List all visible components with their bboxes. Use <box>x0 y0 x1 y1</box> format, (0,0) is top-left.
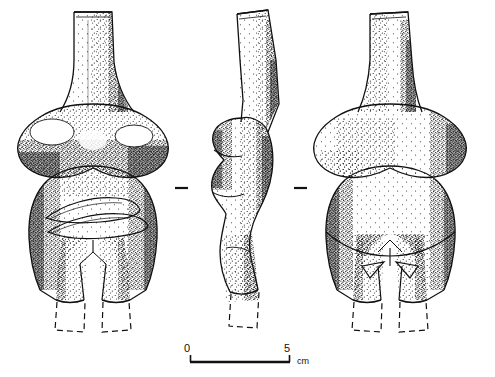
scale-bar-unit-label: cm <box>297 356 309 366</box>
illustration-canvas: 0 5 cm <box>0 0 495 377</box>
figure-plate: 0 5 cm <box>0 0 495 377</box>
scale-bar-start-label: 0 <box>184 342 190 354</box>
scale-bar-end-label: 5 <box>284 342 290 354</box>
